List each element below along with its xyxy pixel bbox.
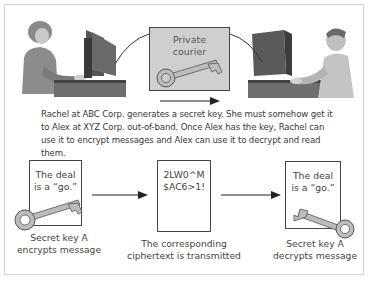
cable-right — [226, 28, 266, 68]
arrow-right-icon — [221, 191, 281, 199]
step1-label: Secret key A encrypts message — [14, 232, 104, 256]
ciphertext-box: 2LW0^M $AC6>1! — [157, 160, 211, 232]
key-icon — [12, 196, 86, 232]
arrow-right-icon — [92, 191, 148, 199]
courier-label: Private courier — [150, 34, 229, 58]
arrow-right-icon — [160, 97, 220, 105]
key-icon — [298, 203, 358, 239]
step3-label: Secret key A decrypts message — [270, 238, 360, 262]
step2-label: The corresponding ciphertext is transmit… — [124, 238, 244, 262]
plaintext-message: The deal is a “go.” — [30, 169, 81, 193]
private-courier-box: Private courier — [149, 27, 230, 91]
key-icon — [154, 58, 228, 88]
person-rachel-icon — [18, 18, 128, 98]
decrypted-message: The deal is a “go.” — [286, 170, 340, 194]
ciphertext-message: 2LW0^M $AC6>1! — [158, 169, 210, 193]
explanation-caption: Rachel at ABC Corp. generates a secret k… — [41, 108, 341, 160]
